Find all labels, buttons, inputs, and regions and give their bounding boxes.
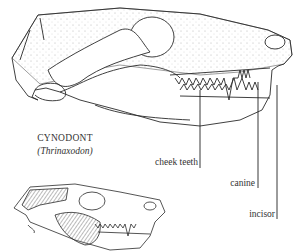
label-canine: canine	[210, 178, 255, 188]
label-cheek-teeth: cheek teeth	[130, 157, 198, 167]
label-incisor: incisor	[225, 209, 275, 219]
small-skull	[14, 184, 165, 250]
main-skull	[12, 8, 292, 126]
figure-title: CYNODONT	[20, 133, 110, 143]
figure-subtitle: (Thrinaxodon)	[20, 146, 110, 156]
leader-lines	[200, 82, 277, 219]
